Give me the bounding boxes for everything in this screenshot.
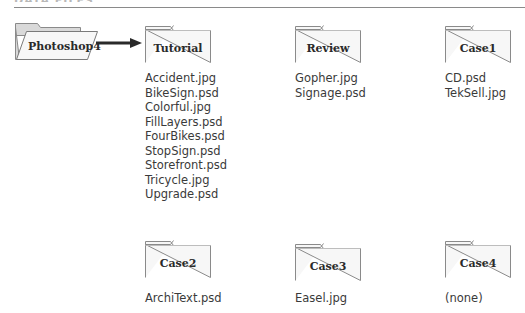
file-item: FillLayers.psd [145,115,227,130]
header-divider [14,7,525,8]
folder-case2[interactable]: Case2 [145,240,211,278]
file-item: Gopher.jpg [295,71,366,86]
file-item: BikeSign.psd [145,86,227,101]
file-item: CD.psd [445,71,506,86]
folder-label: Case2 [145,257,211,270]
file-list-review: Gopher.jpgSignage.psd [295,71,366,100]
root-folder-photoshop4[interactable]: Photoshop4 [14,22,104,62]
file-item: Signage.psd [295,86,366,101]
folder-label: Case1 [445,42,511,55]
file-item: Colorful.jpg [145,100,227,115]
folder-label: Review [295,42,361,55]
folder-case4[interactable]: Case4 [445,240,511,278]
file-list-case3: Easel.jpg [295,291,347,306]
file-item: TekSell.jpg [445,86,506,101]
file-item: ArchiText.psd [145,291,222,306]
file-item: Accident.jpg [145,71,227,86]
file-item: (none) [445,291,483,306]
file-item: StopSign.psd [145,144,227,159]
file-item: Storefront.psd [145,158,227,173]
file-item: Upgrade.psd [145,187,227,202]
folder-tutorial[interactable]: Tutorial [145,25,211,63]
file-list-case1: CD.psdTekSell.jpg [445,71,506,100]
folder-label: Tutorial [145,42,211,55]
file-list-case2: ArchiText.psd [145,291,222,306]
file-list-tutorial: Accident.jpgBikeSign.psdColorful.jpgFill… [145,71,227,202]
clipped-section-title: DATA FILES [14,0,94,2]
folder-label: Case3 [295,260,361,273]
arrow-icon [96,38,144,48]
file-list-case4: (none) [445,291,483,306]
folder-label: Case4 [445,257,511,270]
folder-case1[interactable]: Case1 [445,25,511,63]
file-item: FourBikes.psd [145,129,227,144]
file-item: Easel.jpg [295,291,347,306]
file-item: Tricycle.jpg [145,173,227,188]
folder-review[interactable]: Review [295,25,361,63]
root-folder-label: Photoshop4 [28,40,101,53]
folder-case3[interactable]: Case3 [295,243,361,281]
